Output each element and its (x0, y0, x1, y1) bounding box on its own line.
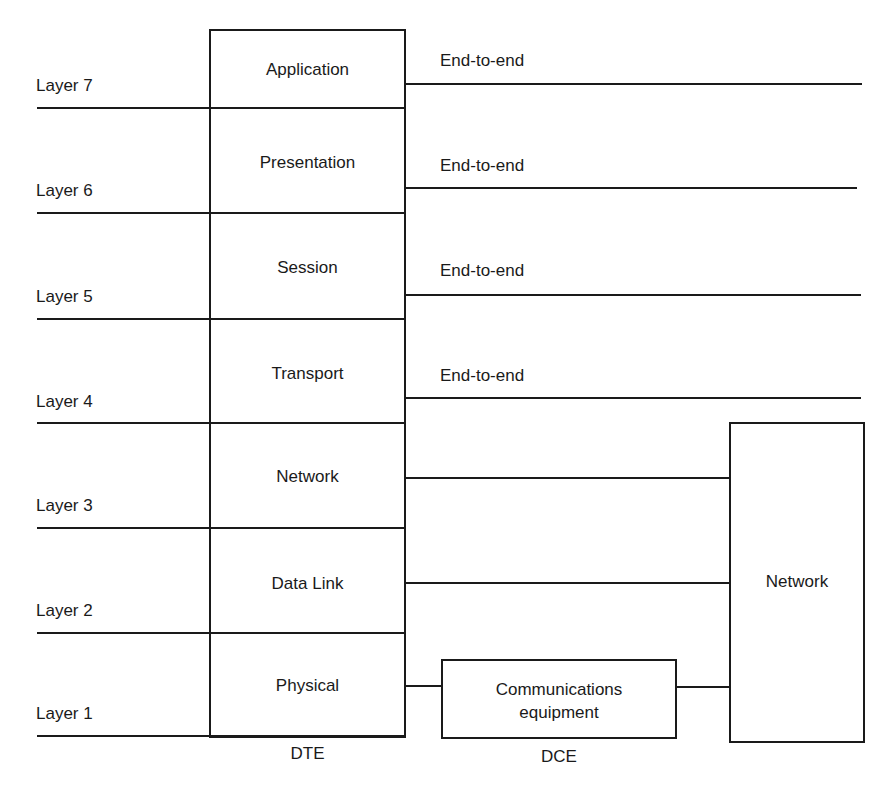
data-link-layer-name: Data Link (209, 574, 406, 594)
physical-layer-name: Physical (209, 676, 406, 696)
layer-7-label: Layer 7 (36, 76, 93, 96)
layer-4-label: Layer 4 (36, 392, 93, 412)
presentation-end-to-end-label: End-to-end (440, 156, 524, 176)
network-layer-name: Network (209, 467, 406, 487)
presentation-layer-name: Presentation (209, 153, 406, 173)
network-layer-connection-line (405, 477, 730, 479)
dce-label: DCE (441, 747, 677, 767)
layer-1-label: Layer 1 (36, 704, 93, 724)
session-end-to-end-line (405, 294, 861, 296)
communications-equipment-line1: Communications (441, 680, 677, 700)
network-box-label: Network (729, 572, 865, 592)
presentation-end-to-end-line (405, 187, 857, 189)
layer-3-label: Layer 3 (36, 496, 93, 516)
session-layer-name: Session (209, 258, 406, 278)
layer-2-label: Layer 2 (36, 601, 93, 621)
dte-label: DTE (209, 744, 406, 764)
transport-end-to-end-label: End-to-end (440, 366, 524, 386)
transport-end-to-end-line (405, 397, 861, 399)
layer-6-label: Layer 6 (36, 181, 93, 201)
transport-layer-name: Transport (209, 364, 406, 384)
session-end-to-end-label: End-to-end (440, 261, 524, 281)
layer-5-label: Layer 5 (36, 287, 93, 307)
data-link-connection-line (405, 582, 730, 584)
communications-equipment-line2: equipment (441, 703, 677, 723)
application-layer-name: Application (209, 60, 406, 80)
physical-to-dce-line (405, 685, 442, 687)
application-end-to-end-label: End-to-end (440, 51, 524, 71)
application-end-to-end-line (405, 83, 862, 85)
dce-to-network-line (676, 686, 730, 688)
